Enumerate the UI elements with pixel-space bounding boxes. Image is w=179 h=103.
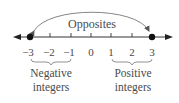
number-line-diagram: Opposites −3 −2 −1 0 1 2 3 Negative inte… [0,0,179,103]
left-arrow-icon [13,34,21,40]
brace-positive [112,59,152,65]
tick-label: −1 [63,46,75,58]
tick-label: 2 [129,46,135,58]
tick-label: 3 [149,46,155,58]
negative-label-line1: Negative [30,67,72,80]
tick-label: −2 [43,46,55,58]
point-pos3 [149,34,155,40]
brace-negative [31,59,71,65]
tick-marks [50,33,132,37]
tick-label: −3 [22,46,34,58]
positive-label-line2: integers [115,81,152,94]
tick-labels: −3 −2 −1 0 1 2 3 [22,46,155,58]
opposites-label: Opposites [68,17,116,31]
point-neg3 [27,34,33,40]
negative-label-line2: integers [33,81,70,94]
positive-label-line1: Positive [114,67,151,79]
right-arrow-icon [165,34,173,40]
number-line [13,33,173,40]
tick-label: 1 [108,46,114,58]
tick-label: 0 [88,46,94,58]
